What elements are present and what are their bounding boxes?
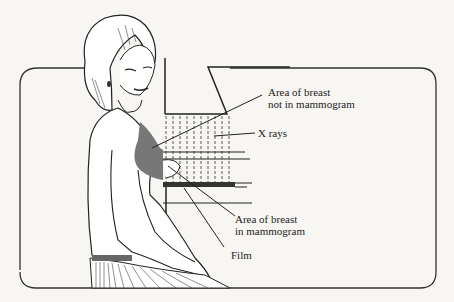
callout-film [184, 188, 224, 247]
background-panel [20, 68, 436, 288]
label-not-in-mammogram: Area of breast not in mammogram [268, 86, 355, 110]
callout-not-in-mammogram [152, 95, 262, 148]
earring [107, 81, 111, 87]
film-holder [163, 182, 235, 187]
label-xrays: X rays [258, 127, 287, 139]
mammogram-diagram [0, 0, 454, 302]
callout-xrays [214, 133, 255, 136]
callout-in-mammogram [168, 166, 235, 216]
label-film: Film [231, 249, 252, 261]
waistband [92, 255, 132, 261]
label-in-mammogram: Area of breast in mammogram [235, 213, 305, 237]
